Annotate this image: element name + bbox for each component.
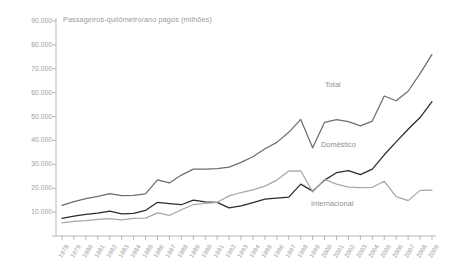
y-axis-tick-label: 40.000 [12,136,52,143]
series-line-total [62,54,432,205]
y-axis-tick-label: 90.000 [12,17,52,24]
total-series-label: Total [325,80,341,89]
domestico-series-label: Doméstico [321,140,356,149]
y-axis-tick-label: 70.000 [12,65,52,72]
internacional-series-label: Internacional [311,199,353,208]
y-axis-tick-label: 10.000 [12,208,52,215]
chart-series-layer [62,54,432,222]
series-line-internacional [62,171,432,223]
line-chart-plot [0,0,453,279]
y-axis-tick-label: 30.000 [12,160,52,167]
chart-axes [52,18,436,240]
y-axis-tick-label: 50.000 [12,113,52,120]
chart-container: Passageiros-quilômetro/ano pagos (milhõe… [0,0,453,279]
y-axis-tick-label: 80.000 [12,41,52,48]
y-axis-tick-label: 20.000 [12,184,52,191]
y-axis-tick-label: 60.000 [12,89,52,96]
